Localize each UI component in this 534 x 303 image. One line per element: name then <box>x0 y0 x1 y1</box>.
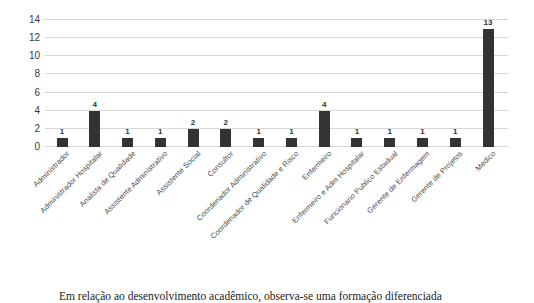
caption-text: Em relação ao desenvolvimento acadêmico,… <box>59 290 519 303</box>
bar-value-label: 4 <box>80 100 110 109</box>
bar[interactable] <box>220 129 231 147</box>
bar-value-label: 2 <box>211 118 241 127</box>
y-axis-tick-label: 6 <box>0 88 40 98</box>
bar-value-label: 4 <box>309 100 339 109</box>
bar-column[interactable]: 4 <box>89 20 100 147</box>
x-axis-label: Gerente de Enfermagem <box>366 149 432 215</box>
y-axis: 02468101214 <box>0 20 40 147</box>
bar-value-label: 2 <box>178 118 208 127</box>
bar-column[interactable]: 2 <box>188 20 199 147</box>
y-axis-tick-label: 2 <box>0 124 40 134</box>
x-axis-label: Assistente Administrativo <box>103 149 170 216</box>
bar[interactable] <box>319 111 330 147</box>
y-axis-tick-label: 12 <box>0 33 40 43</box>
bar-series: 141122114111113 <box>45 20 508 147</box>
bar-column[interactable]: 4 <box>319 20 330 147</box>
bar-value-label: 1 <box>440 127 470 136</box>
bar-value-label: 1 <box>407 127 437 136</box>
bar-value-label: 1 <box>47 127 77 136</box>
bar[interactable] <box>155 138 166 147</box>
bar[interactable] <box>188 129 199 147</box>
x-axis-label: Medico <box>473 149 497 173</box>
x-axis-label: Administrador Hospitalar <box>38 149 104 215</box>
bar-value-label: 1 <box>244 127 274 136</box>
x-axis-category-labels: AdministradorAdministrador HospitalarAna… <box>45 149 508 254</box>
bar[interactable] <box>384 138 395 147</box>
bar-column[interactable]: 1 <box>253 20 264 147</box>
bar-value-label: 1 <box>375 127 405 136</box>
bar-column[interactable]: 1 <box>450 20 461 147</box>
bar-value-label: 13 <box>473 18 503 27</box>
x-axis-label: Analista de Qualidade <box>77 149 137 209</box>
y-axis-tick-label: 10 <box>0 51 40 61</box>
bar[interactable] <box>286 138 297 147</box>
bar[interactable] <box>57 138 68 147</box>
bar-value-label: 1 <box>276 127 306 136</box>
bar[interactable] <box>122 138 133 147</box>
bar-column[interactable]: 1 <box>155 20 166 147</box>
x-axis-label: Enfermeiro <box>300 149 333 182</box>
bar[interactable] <box>417 138 428 147</box>
bar-value-label: 1 <box>342 127 372 136</box>
y-axis-tick-label: 0 <box>0 142 40 152</box>
bar-value-label: 1 <box>145 127 175 136</box>
plot-area: 141122114111113 <box>45 20 508 147</box>
bar-column[interactable]: 1 <box>384 20 395 147</box>
bar[interactable] <box>253 138 264 147</box>
y-axis-tick-label: 14 <box>0 15 40 25</box>
y-axis-tick-label: 4 <box>0 106 40 116</box>
bar-column[interactable]: 1 <box>351 20 362 147</box>
bar-value-label: 1 <box>113 127 143 136</box>
bar-column[interactable]: 2 <box>220 20 231 147</box>
x-axis-label: Consultor <box>206 149 236 179</box>
bar[interactable] <box>450 138 461 147</box>
bar[interactable] <box>483 29 494 147</box>
y-axis-tick-label: 8 <box>0 69 40 79</box>
bar-column[interactable]: 13 <box>483 20 494 147</box>
bar-column[interactable]: 1 <box>417 20 428 147</box>
bar-column[interactable]: 1 <box>122 20 133 147</box>
bar-column[interactable]: 1 <box>57 20 68 147</box>
bar-column[interactable]: 1 <box>286 20 297 147</box>
bar[interactable] <box>351 138 362 147</box>
bar[interactable] <box>89 111 100 147</box>
